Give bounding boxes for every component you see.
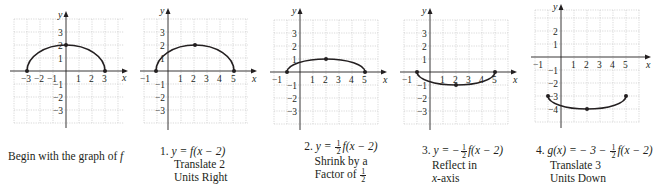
svg-text:1: 1 — [58, 54, 63, 64]
svg-text:1: 1 — [76, 74, 81, 84]
svg-text:−2: −2 — [155, 93, 165, 103]
caption-text: Begin with the graph of — [8, 150, 120, 162]
svg-text:−2: −2 — [417, 94, 427, 104]
graph-translate-right: y x −112345 321−1−2−3 — [130, 0, 260, 140]
description-line-2: Units Down — [536, 172, 656, 185]
equation: 2. y = 12f(x − 2) — [296, 140, 386, 155]
y-axis-label: y — [159, 5, 165, 16]
svg-text:1: 1 — [422, 55, 427, 65]
graph-original-f: y x −3−2−1123 321−1−2−3 — [0, 0, 130, 140]
svg-text:−2: −2 — [548, 79, 558, 89]
svg-text:−2: −2 — [53, 93, 63, 103]
equation: 1. y = f(x − 2) — [160, 145, 270, 158]
svg-text:3: 3 — [102, 74, 107, 84]
description-line-2: x-axis — [422, 172, 532, 185]
svg-text:−3: −3 — [155, 106, 165, 116]
y-axis-label: y — [421, 5, 427, 16]
description-line-1: Reflect in — [422, 159, 532, 172]
svg-text:−1: −1 — [140, 74, 150, 84]
svg-text:−3: −3 — [21, 74, 31, 84]
x-axis-label: x — [512, 74, 518, 85]
y-axis-arrow-icon — [428, 8, 433, 14]
svg-text:3: 3 — [204, 74, 209, 84]
svg-text:5: 5 — [362, 75, 367, 85]
svg-text:−1: −1 — [272, 75, 282, 85]
x-tick-labels: −3−2−1123 — [21, 74, 107, 84]
caption-step-3: 3. y = −12f(x − 2) Reflect in x-axis — [422, 144, 532, 185]
y-axis-label: y — [57, 9, 63, 20]
svg-text:4: 4 — [479, 75, 484, 85]
y-axis-arrow-icon — [64, 11, 69, 17]
svg-text:4: 4 — [349, 75, 354, 85]
description-line-2: Units Right — [160, 171, 270, 184]
svg-text:3: 3 — [336, 75, 341, 85]
svg-text:−1: −1 — [53, 80, 63, 90]
svg-text:2: 2 — [323, 75, 328, 85]
svg-text:5: 5 — [231, 74, 236, 84]
svg-text:4: 4 — [610, 60, 615, 70]
svg-text:−3: −3 — [287, 107, 297, 117]
x-axis-label: x — [121, 72, 127, 83]
svg-text:1: 1 — [553, 40, 558, 50]
graph-shrink: y x −112345 321−1−2−3 — [260, 0, 390, 140]
y-axis-arrow-icon — [559, 4, 564, 10]
svg-text:−1: −1 — [155, 80, 165, 90]
y-axis-label: y — [291, 5, 297, 16]
svg-text:−3: −3 — [53, 106, 63, 116]
svg-text:3: 3 — [292, 29, 297, 39]
caption-step-4: 4. g(x) = − 3 − 12f(x − 2) Translate 3 U… — [536, 144, 656, 185]
svg-text:4: 4 — [217, 74, 222, 84]
equation: 4. g(x) = − 3 − 12f(x − 2) — [536, 144, 656, 159]
svg-text:2: 2 — [584, 60, 589, 70]
svg-text:3: 3 — [597, 60, 602, 70]
x-axis-label: x — [251, 73, 257, 84]
svg-text:2: 2 — [191, 74, 196, 84]
graph-translate-down: y x −112345 21−1−2−3−4 — [520, 0, 656, 140]
svg-text:2: 2 — [160, 41, 165, 51]
svg-text:−1: −1 — [533, 60, 543, 70]
description-line-1: Translate 2 — [160, 158, 270, 171]
svg-text:3: 3 — [422, 29, 427, 39]
y-tick-labels: 321−1−2−3 — [53, 28, 63, 116]
description-line-1: Translate 3 — [536, 159, 656, 172]
svg-text:2: 2 — [422, 42, 427, 52]
svg-text:−1: −1 — [548, 66, 558, 76]
svg-text:−1: −1 — [287, 81, 297, 91]
svg-text:−3: −3 — [417, 107, 427, 117]
svg-text:1: 1 — [571, 60, 576, 70]
equation: 3. y = −12f(x − 2) — [422, 144, 532, 159]
svg-text:1: 1 — [310, 75, 315, 85]
y-axis-arrow-icon — [298, 8, 303, 14]
svg-text:1: 1 — [178, 74, 183, 84]
y-axis-label: y — [552, 1, 558, 12]
svg-text:2: 2 — [89, 74, 94, 84]
description-line-1: Shrink by a — [296, 155, 386, 168]
svg-text:−1: −1 — [402, 75, 412, 85]
caption-step-1: 1. y = f(x − 2) Translate 2 Units Right — [160, 145, 270, 184]
caption-step-2: 2. y = 12f(x − 2) Shrink by a Factor of … — [296, 140, 386, 183]
svg-text:2: 2 — [553, 27, 558, 37]
svg-text:3: 3 — [58, 28, 63, 38]
svg-text:5: 5 — [623, 60, 628, 70]
svg-text:−2: −2 — [34, 74, 44, 84]
description-line-2: Factor of 12 — [296, 168, 386, 183]
svg-text:−1: −1 — [417, 81, 427, 91]
function-name: f — [120, 150, 123, 162]
svg-text:3: 3 — [160, 28, 165, 38]
y-axis-arrow-icon — [166, 8, 171, 14]
graph-reflect: y x −112345 321−1−2−3 — [390, 0, 520, 140]
x-axis-label: x — [645, 59, 651, 70]
svg-text:−4: −4 — [548, 105, 558, 115]
caption-original: Begin with the graph of f — [8, 150, 128, 163]
svg-text:2: 2 — [292, 42, 297, 52]
x-axis-label: x — [382, 74, 388, 85]
svg-text:−2: −2 — [287, 94, 297, 104]
